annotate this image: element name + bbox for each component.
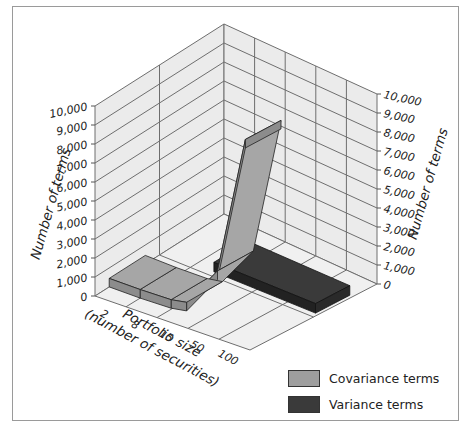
y-tick-label-right: 6,000 xyxy=(382,164,416,183)
legend-item-covariance: Covariance terms xyxy=(288,366,439,390)
y-tick-label-left: 0 xyxy=(79,290,89,304)
x-tick-label: 100 xyxy=(216,347,241,368)
y-tick-label-left: 1,000 xyxy=(55,271,89,290)
y-tick-label-left: 4,000 xyxy=(55,214,89,233)
y-tick-label-left: 10,000 xyxy=(48,100,88,121)
y-tick-label-left: 3,000 xyxy=(55,233,89,252)
legend-swatch-covariance xyxy=(288,370,320,387)
y-tick-label-right: 0 xyxy=(382,278,392,292)
legend-item-variance: Variance terms xyxy=(288,392,439,416)
legend-label-variance: Variance terms xyxy=(329,397,423,412)
y-tick-label-right: 7,000 xyxy=(382,145,416,164)
y-tick-label-right: 2,000 xyxy=(382,240,416,259)
legend: Covariance terms Variance terms xyxy=(288,366,439,418)
y-tick-label-right: 5,000 xyxy=(382,183,416,202)
y-tick-label-right: 1,000 xyxy=(382,259,416,278)
y-tick-label-left: 5,000 xyxy=(55,195,89,214)
y-tick-label-right: 10,000 xyxy=(382,88,422,109)
y-tick-label-right: 8,000 xyxy=(382,126,416,145)
y-tick-label-left: 2,000 xyxy=(55,252,89,271)
y-tick-label-left: 9,000 xyxy=(55,119,89,138)
y-tick-label-right: 9,000 xyxy=(382,107,416,126)
legend-label-covariance: Covariance terms xyxy=(329,371,439,386)
legend-swatch-variance xyxy=(288,396,320,413)
